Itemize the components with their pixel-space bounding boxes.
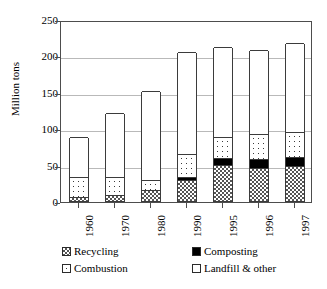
bar-segment-combustion-1990 xyxy=(178,154,196,177)
x-tick-label-1980: 1980 xyxy=(155,215,167,237)
bar-segment-composting-1990 xyxy=(178,177,196,180)
chart-legend: RecyclingCompostingCombustionLandfill & … xyxy=(62,246,302,282)
bar-segment-combustion-1970 xyxy=(106,177,124,195)
bar-group-1995[interactable] xyxy=(213,20,233,202)
stacked-bar-1990[interactable] xyxy=(177,53,197,202)
bar-group-1960[interactable] xyxy=(69,20,89,202)
bar-segment-recycling-1960 xyxy=(70,197,88,201)
x-tick-label-1970: 1970 xyxy=(119,215,131,237)
x-tick-mark-1960 xyxy=(78,203,79,208)
stacked-bar-1980[interactable] xyxy=(141,92,161,202)
bar-series-container xyxy=(61,22,311,202)
bar-segment-landfill-other-1960 xyxy=(70,137,88,177)
stacked-bar-1996[interactable] xyxy=(249,51,269,202)
x-tick-mark-1990 xyxy=(186,203,187,208)
bar-segment-landfill-other-1970 xyxy=(106,113,124,177)
legend-label: Composting xyxy=(204,246,258,257)
x-tick-mark-1980 xyxy=(150,203,151,208)
stacked-bar-1997[interactable] xyxy=(285,44,305,202)
legend-label: Landfill & other xyxy=(204,263,276,274)
chart-page: Million tons 050100150200250 19601970198… xyxy=(0,0,327,289)
y-tick-label-50: 50 xyxy=(8,160,58,172)
x-tick-mark-1997 xyxy=(294,203,295,208)
x-tick-mark-1996 xyxy=(258,203,259,208)
plot-area xyxy=(60,21,312,203)
x-tick-mark-1970 xyxy=(114,203,115,208)
x-tick-label-1990: 1990 xyxy=(191,215,203,237)
x-tick-label-1996: 1996 xyxy=(263,215,275,237)
y-tick-label-0: 0 xyxy=(8,196,58,208)
bar-segment-landfill-other-1996 xyxy=(250,50,268,135)
bar-segment-recycling-1997 xyxy=(286,166,304,201)
legend-item-recycling[interactable]: Recycling xyxy=(62,246,119,257)
bar-segment-recycling-1996 xyxy=(250,168,268,201)
bar-segment-combustion-1997 xyxy=(286,132,304,157)
x-tick-label-1960: 1960 xyxy=(83,215,95,237)
legend-item-landfill-other[interactable]: Landfill & other xyxy=(192,263,276,274)
stacked-bar-1995[interactable] xyxy=(213,48,233,202)
legend-swatch-empty-icon xyxy=(192,264,201,273)
y-tick-label-200: 200 xyxy=(8,50,58,62)
legend-swatch-checkered-icon xyxy=(62,247,71,256)
bar-group-1997[interactable] xyxy=(285,20,305,202)
bar-group-1970[interactable] xyxy=(105,20,125,202)
stacked-bar-1960[interactable] xyxy=(69,138,89,202)
y-tick-mark-0 xyxy=(55,203,60,204)
bar-segment-recycling-1995 xyxy=(214,165,232,201)
bar-segment-composting-1995 xyxy=(214,158,232,165)
bar-segment-landfill-other-1995 xyxy=(214,47,232,137)
legend-swatch-solid-icon xyxy=(192,247,201,256)
x-tick-label-1995: 1995 xyxy=(227,215,239,237)
bar-segment-combustion-1980 xyxy=(142,180,160,190)
bar-segment-combustion-1960 xyxy=(70,177,88,197)
x-tick-mark-1995 xyxy=(222,203,223,208)
bar-segment-composting-1996 xyxy=(250,159,268,168)
bar-segment-combustion-1996 xyxy=(250,134,268,158)
bar-segment-landfill-other-1990 xyxy=(178,52,196,154)
y-tick-label-100: 100 xyxy=(8,123,58,135)
bar-group-1990[interactable] xyxy=(177,20,197,202)
bar-segment-recycling-1990 xyxy=(178,180,196,201)
bar-segment-combustion-1995 xyxy=(214,137,232,158)
bar-group-1980[interactable] xyxy=(141,20,161,202)
bar-segment-composting-1997 xyxy=(286,157,304,166)
bar-segment-recycling-1970 xyxy=(106,195,124,201)
stacked-bar-1970[interactable] xyxy=(105,114,125,202)
y-axis-ticks: 050100150200250 xyxy=(0,0,58,289)
legend-label: Combustion xyxy=(74,263,128,274)
legend-item-composting[interactable]: Composting xyxy=(192,246,258,257)
bar-segment-landfill-other-1980 xyxy=(142,91,160,180)
bar-segment-landfill-other-1997 xyxy=(286,43,304,132)
bar-group-1996[interactable] xyxy=(249,20,269,202)
legend-label: Recycling xyxy=(74,246,119,257)
legend-item-combustion[interactable]: Combustion xyxy=(62,263,128,274)
legend-swatch-dotted-icon xyxy=(62,264,71,273)
y-tick-label-150: 150 xyxy=(8,87,58,99)
x-tick-label-1997: 1997 xyxy=(299,215,311,237)
bar-segment-recycling-1980 xyxy=(142,190,160,201)
y-tick-label-250: 250 xyxy=(8,14,58,26)
